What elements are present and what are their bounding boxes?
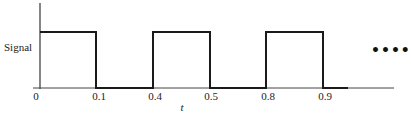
x-tick-0.5: 0.5 (204, 91, 218, 102)
x-tick-0: 0 (33, 91, 39, 102)
x-tick-0.4: 0.4 (148, 91, 162, 102)
x-axis-label: t (180, 102, 183, 113)
x-tick-0.9: 0.9 (318, 91, 332, 102)
y-axis-label: Signal (4, 42, 32, 53)
continuation-ellipsis: •••• (371, 43, 411, 57)
x-tick-0.1: 0.1 (92, 91, 106, 102)
signal-trace (40, 32, 348, 88)
x-tick-0.8: 0.8 (261, 91, 275, 102)
